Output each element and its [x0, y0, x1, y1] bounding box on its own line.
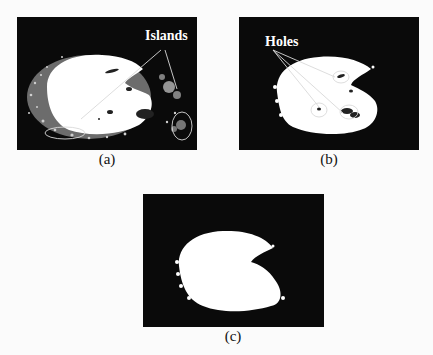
panel-a-label: (a) [87, 151, 127, 168]
annotation-islands: Islands [145, 28, 188, 44]
panel-a-islands-image: Islands [17, 17, 197, 150]
panel-c-graphic [143, 194, 324, 327]
lesion-region [47, 55, 152, 134]
lesion-region [277, 57, 378, 134]
panel-c-label: (c) [213, 328, 253, 345]
lesion-region [179, 231, 281, 311]
panel-b-holes-image: Holes [239, 17, 419, 150]
annotation-holes: Holes [265, 34, 298, 50]
figure-caption-fragment [0, 346, 433, 355]
panel-c-cleaned-image [143, 194, 324, 327]
panel-b-label: (b) [309, 151, 349, 168]
